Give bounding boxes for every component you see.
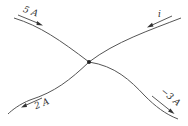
label-5a: 5 A xyxy=(22,4,40,19)
label-i: i xyxy=(158,9,161,19)
junction-node xyxy=(87,60,91,64)
wire-top-right xyxy=(89,18,181,62)
junction-diagram: 5 A i 2 A −3 A xyxy=(0,0,188,126)
wire-top-left xyxy=(14,18,89,62)
